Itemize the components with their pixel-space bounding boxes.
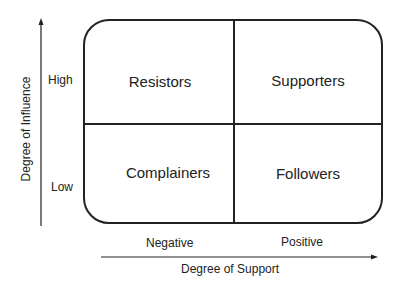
horizontal-divider: [85, 123, 381, 125]
y-axis-title: Degree of Influence: [19, 59, 33, 199]
quadrant-followers: Followers: [233, 165, 383, 182]
quadrant-resistors: Resistors: [85, 73, 235, 90]
quadrant-complainers: Complainers: [93, 164, 243, 181]
x-tick-negative: Negative: [146, 236, 193, 250]
quadrant-matrix: Resistors Supporters Complainers Followe…: [83, 19, 383, 224]
y-tick-low: Low: [51, 180, 73, 194]
x-axis-title: Degree of Support: [181, 262, 279, 276]
vertical-divider: [233, 21, 235, 222]
quadrant-supporters: Supporters: [233, 72, 383, 89]
right-arrow-icon: [371, 255, 378, 260]
x-tick-positive: Positive: [281, 235, 323, 249]
y-tick-high: High: [48, 73, 73, 87]
up-arrow-icon: [39, 18, 44, 25]
